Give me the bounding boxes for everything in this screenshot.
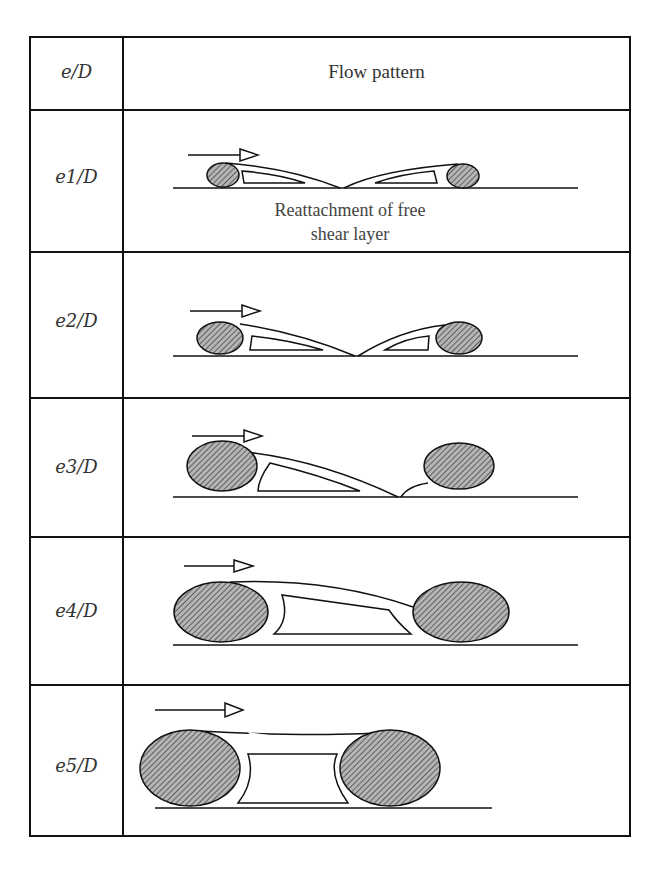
cylinder-upstream (187, 441, 257, 491)
row1-label-var: e1 (55, 166, 77, 187)
row5-label-var: e5 (55, 755, 77, 776)
row5-label: e5/D (30, 755, 123, 776)
row1-caption: Reattachment of free shear layer (230, 198, 470, 246)
shear-layer-downstream (358, 325, 445, 356)
flow-direction-arrow-icon (192, 430, 262, 442)
row3-label-var: e3 (55, 456, 77, 477)
caption-line1: Reattachment of free (230, 198, 470, 222)
recirculation-zone-upstream (250, 336, 323, 350)
flow-direction-arrow-icon (188, 149, 258, 161)
row1-label-suffix: /D (77, 166, 98, 187)
flow-direction-arrow-icon (184, 560, 253, 572)
row4-label: e4/D (30, 600, 123, 621)
header-e-over-d: e/D (30, 61, 123, 82)
row2-flow-pattern (173, 305, 578, 356)
cylinder-downstream (447, 164, 479, 188)
row3-label: e3/D (30, 456, 123, 477)
cylinder-upstream (140, 730, 240, 806)
cylinder-downstream (436, 322, 482, 354)
recirculation-zone (238, 754, 348, 803)
cylinder-upstream (207, 163, 239, 187)
row4-label-suffix: /D (77, 600, 98, 621)
header-col1-label: e/D (61, 61, 92, 82)
flow-pattern-diagram (0, 0, 655, 871)
row1-flow-pattern (173, 149, 578, 188)
cylinder-downstream (424, 443, 494, 489)
recirculation-zone-upstream (242, 171, 305, 183)
flow-direction-arrow-icon (155, 703, 243, 717)
row5-flow-pattern (140, 703, 492, 808)
caption-line2: shear layer (230, 222, 470, 246)
row3-flow-pattern (173, 430, 578, 497)
row2-label-var: e2 (55, 310, 77, 331)
row2-label: e2/D (30, 310, 123, 331)
row2-label-suffix: /D (77, 310, 98, 331)
row3-label-suffix: /D (77, 456, 98, 477)
row5-label-suffix: /D (77, 755, 98, 776)
row4-flow-pattern (173, 560, 578, 645)
row1-label: e1/D (30, 166, 123, 187)
flow-direction-arrow-icon (190, 305, 260, 317)
row4-label-var: e4 (55, 600, 77, 621)
header-flow-pattern: Flow pattern (123, 61, 630, 83)
cylinder-upstream (174, 582, 268, 642)
reattachment-bubble (401, 483, 428, 497)
recirculation-zone (274, 595, 411, 634)
cylinder-downstream (413, 582, 509, 642)
recirculation-zone-downstream (375, 171, 437, 183)
cylinder-upstream (197, 322, 243, 354)
table-grid (30, 37, 630, 836)
cylinder-downstream (340, 730, 440, 806)
recirculation-zone-upstream (258, 463, 360, 491)
